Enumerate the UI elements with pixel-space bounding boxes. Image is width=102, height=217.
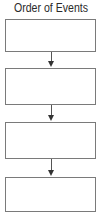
down-arrow-icon — [49, 52, 54, 68]
event-box-1 — [5, 19, 96, 52]
event-box-4 — [5, 177, 96, 212]
down-arrow-icon — [49, 159, 54, 177]
down-arrow-icon — [49, 105, 54, 122]
diagram-title: Order of Events — [6, 1, 96, 15]
event-box-2 — [5, 68, 96, 105]
event-box-3 — [5, 122, 96, 159]
